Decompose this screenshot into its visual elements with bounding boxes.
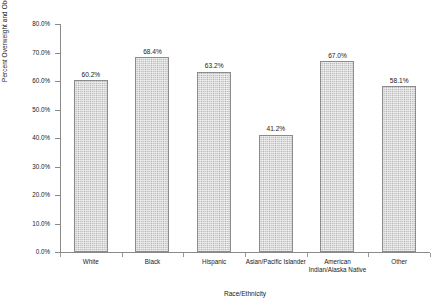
bar[interactable] — [197, 72, 231, 252]
x-tick-label: White — [60, 258, 122, 266]
bar[interactable] — [382, 86, 416, 252]
bar[interactable] — [74, 80, 108, 252]
bar-value-label: 63.2% — [205, 62, 224, 69]
x-tick-mark — [122, 253, 123, 257]
bar-value-label: 58.1% — [390, 77, 409, 84]
x-tick-label: Black — [122, 258, 184, 266]
y-tick-label: 20.0% — [2, 191, 50, 198]
x-tick-label: American Indian/Alaska Native — [307, 258, 369, 275]
bar-slot: 63.2% — [183, 24, 245, 252]
bar-slot: 58.1% — [368, 24, 430, 252]
bar-slot: 60.2% — [60, 24, 122, 252]
y-tick-label: 40.0% — [2, 134, 50, 141]
x-tick-mark — [430, 253, 431, 257]
bar-slot: 67.0% — [307, 24, 369, 252]
bar-slot: 68.4% — [122, 24, 184, 252]
chart-title — [0, 0, 434, 1]
bar-slot: 41.2% — [245, 24, 307, 252]
x-tick-label: Asian/Pacific Islander — [245, 258, 307, 266]
x-tick-mark — [368, 253, 369, 257]
bar-value-label: 41.2% — [266, 125, 285, 132]
bar-chart-figure: Percent Overweight and Obese 0.0%10.0%20… — [0, 0, 434, 306]
y-tick-label: 50.0% — [2, 106, 50, 113]
bar[interactable] — [135, 57, 169, 252]
x-axis-title: Race/Ethnicity — [60, 290, 430, 297]
x-tick-label: Hispanic — [183, 258, 245, 266]
y-tick-label: 70.0% — [2, 49, 50, 56]
y-tick-label: 0.0% — [2, 248, 50, 255]
x-tick-mark — [60, 253, 61, 257]
y-tick-label: 10.0% — [2, 220, 50, 227]
y-tick-label: 30.0% — [2, 163, 50, 170]
bar[interactable] — [320, 61, 354, 252]
x-tick-mark — [245, 253, 246, 257]
bar-value-label: 60.2% — [81, 71, 100, 78]
x-tick-label: Other — [368, 258, 430, 266]
x-tick-mark — [183, 253, 184, 257]
bar-value-label: 67.0% — [328, 52, 347, 59]
bar[interactable] — [259, 135, 293, 252]
plot-area: 60.2%68.4%63.2%41.2%67.0%58.1% — [60, 24, 430, 252]
y-tick-label: 60.0% — [2, 77, 50, 84]
x-tick-mark — [307, 253, 308, 257]
bar-value-label: 68.4% — [143, 48, 162, 55]
y-tick-label: 80.0% — [2, 20, 50, 27]
